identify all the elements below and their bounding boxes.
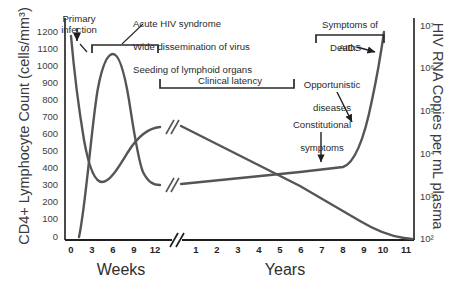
x-tick-week-0: 0 bbox=[62, 244, 80, 255]
y-left-tick-700: 700 bbox=[24, 111, 58, 122]
opportunistic-line-1: Opportunistic bbox=[293, 79, 371, 90]
x-axis-years-title: Years bbox=[230, 261, 340, 279]
x-tick-week-6: 6 bbox=[104, 244, 122, 255]
y-left-tick-200: 200 bbox=[24, 196, 58, 207]
y-axis-left-title: CD4+ Lymphocyte Count (cells/mm³) bbox=[16, 6, 32, 246]
cd4-curve-break-mark bbox=[166, 120, 179, 134]
x-tick-week-3: 3 bbox=[83, 244, 101, 255]
y-left-tick-500: 500 bbox=[24, 145, 58, 156]
annotation-primary-infection: Primary infection bbox=[52, 13, 106, 36]
viral-load-curve-break-mark bbox=[166, 178, 179, 192]
y-left-tick-600: 600 bbox=[24, 128, 58, 139]
x-tick-year-11: 11 bbox=[397, 244, 415, 255]
hiv-infection-timecourse-chart: CD4+ Lymphocyte Count (cells/mm³) HIV RN… bbox=[0, 0, 462, 288]
x-tick-year-5: 5 bbox=[271, 244, 289, 255]
x-tick-week-12: 12 bbox=[146, 244, 164, 255]
acute-syndrome-line-3: Seeding of lymphoid organs bbox=[133, 64, 263, 75]
annotation-death: Death bbox=[330, 42, 362, 53]
annotation-constitutional-symptoms: Constitutional symptoms bbox=[283, 108, 361, 165]
x-axis-weeks-title: Weeks bbox=[66, 261, 176, 279]
y-left-tick-1100: 1100 bbox=[24, 43, 58, 54]
y-right-tick-1e5: 10⁵ bbox=[420, 105, 450, 116]
primary-infection-leader-line bbox=[80, 44, 87, 52]
y-left-tick-900: 900 bbox=[24, 77, 58, 88]
y-right-tick-1e7: 10⁷ bbox=[420, 20, 450, 31]
x-tick-year-7: 7 bbox=[313, 244, 331, 255]
x-tick-year-8: 8 bbox=[334, 244, 352, 255]
x-tick-year-9: 9 bbox=[355, 244, 373, 255]
x-tick-year-10: 10 bbox=[374, 244, 392, 255]
y-left-tick-0: 0 bbox=[24, 231, 58, 242]
acute-syndrome-line-2: Wide dissemination of virus bbox=[133, 41, 263, 52]
y-left-tick-1000: 1000 bbox=[24, 60, 58, 71]
x-axis-break-marks bbox=[170, 233, 184, 247]
constitutional-line-2: symptoms bbox=[283, 142, 361, 153]
y-left-tick-800: 800 bbox=[24, 94, 58, 105]
constitutional-line-1: Constitutional bbox=[283, 119, 361, 130]
x-tick-year-3: 3 bbox=[229, 244, 247, 255]
y-left-tick-300: 300 bbox=[24, 179, 58, 190]
acute-syndrome-line-1: Acute HIV syndrome bbox=[133, 18, 263, 29]
y-right-tick-1e2: 10² bbox=[420, 233, 450, 244]
x-tick-year-6: 6 bbox=[292, 244, 310, 255]
y-right-tick-1e6: 10⁶ bbox=[420, 62, 450, 73]
y-right-tick-1e4: 10⁴ bbox=[420, 148, 450, 159]
symptoms-aids-line-1: Symptoms of bbox=[318, 19, 382, 30]
x-tick-week-9: 9 bbox=[125, 244, 143, 255]
x-tick-year-1: 1 bbox=[187, 244, 205, 255]
y-left-tick-400: 400 bbox=[24, 162, 58, 173]
x-tick-year-2: 2 bbox=[208, 244, 226, 255]
y-axis-right-title: HIV RNA Copies per mL plasma bbox=[430, 6, 446, 246]
x-tick-year-4: 4 bbox=[250, 244, 268, 255]
annotation-clinical-latency: Clinical latency bbox=[194, 75, 266, 86]
y-right-tick-1e3: 10³ bbox=[420, 191, 450, 202]
annotation-symptoms-of-aids: Symptoms of AIDS bbox=[318, 8, 382, 65]
y-left-tick-100: 100 bbox=[24, 213, 58, 224]
